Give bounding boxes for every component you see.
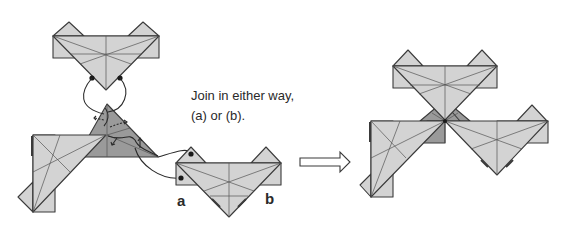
top-unit <box>53 22 159 90</box>
label-a: a <box>177 192 185 209</box>
instruction-text: Join in either way, (a) or (b). <box>191 86 294 126</box>
join-point <box>443 119 447 123</box>
instruction-line-2: (a) or (b). <box>191 106 294 126</box>
instruction-line-1: Join in either way, <box>191 86 294 106</box>
top-unit <box>393 50 497 120</box>
pin-dot-a-upper <box>188 151 193 156</box>
right-figure <box>360 50 548 197</box>
right-hollow-arrow-icon <box>300 152 350 172</box>
pin-dot-a-lower <box>178 175 183 180</box>
left-unit <box>18 135 106 212</box>
label-b: b <box>265 190 274 207</box>
left-unit <box>360 121 445 197</box>
